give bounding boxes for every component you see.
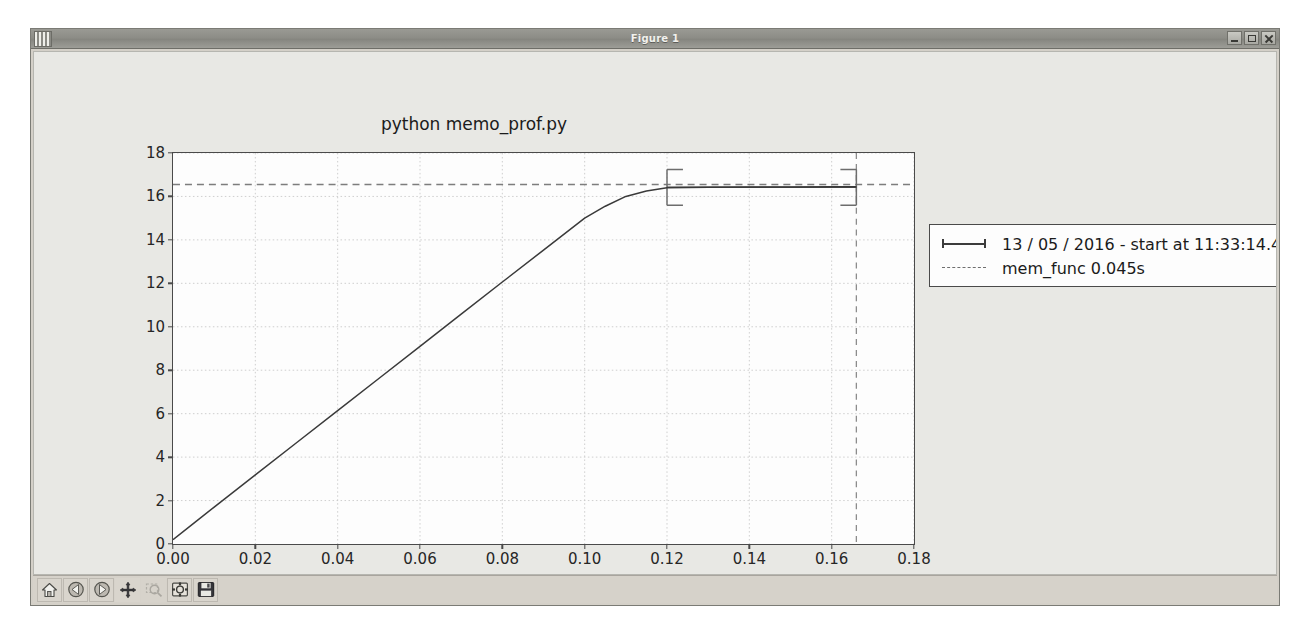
y-tick-mark — [168, 413, 173, 414]
save-floppy-icon[interactable] — [193, 578, 218, 602]
x-tick-mark — [666, 544, 667, 549]
y-tick-mark — [168, 456, 173, 457]
back-arrow-icon[interactable] — [63, 578, 88, 602]
minimize-icon[interactable] — [1227, 31, 1242, 45]
home-icon[interactable] — [37, 578, 62, 602]
x-tick-mark — [913, 544, 914, 549]
x-tick-mark — [337, 544, 338, 549]
y-tick-label: 12 — [146, 274, 165, 292]
y-tick-mark — [168, 239, 173, 240]
legend-label: 13 / 05 / 2016 - start at 11:33:14.4 — [1002, 235, 1277, 254]
close-icon[interactable] — [1261, 31, 1276, 45]
window-controls — [1227, 31, 1276, 45]
y-tick-mark — [168, 370, 173, 371]
y-tick-label: 10 — [146, 318, 165, 336]
y-tick-mark — [168, 196, 173, 197]
y-tick-label: 2 — [155, 492, 165, 510]
x-tick-mark — [255, 544, 256, 549]
y-tick-label: 8 — [155, 361, 165, 379]
page-root: Figure 1 python memo_prof.py memory used… — [0, 0, 1311, 643]
y-tick-mark — [168, 283, 173, 284]
figure-canvas[interactable]: python memo_prof.py memory used (in MiB)… — [33, 51, 1277, 575]
y-tick-mark — [168, 326, 173, 327]
pan-move-icon[interactable] — [115, 578, 140, 602]
chart-title: python memo_prof.py — [34, 114, 914, 134]
x-tick-mark — [831, 544, 832, 549]
y-tick-mark — [168, 500, 173, 501]
toolbar-status-area — [222, 576, 1277, 603]
x-tick-mark — [749, 544, 750, 549]
y-tick-mark — [168, 152, 173, 153]
plot-drawing — [173, 153, 914, 544]
y-tick-label: 18 — [146, 144, 165, 162]
x-tick-label: 0.10 — [568, 550, 601, 568]
x-tick-mark — [584, 544, 585, 549]
navigation-toolbar — [33, 575, 1277, 603]
chart-legend: 13 / 05 / 2016 - start at 11:33:14.4 mem… — [929, 224, 1277, 287]
forward-arrow-icon[interactable] — [89, 578, 114, 602]
solid-capped-line-icon — [940, 238, 988, 250]
window-title: Figure 1 — [31, 33, 1279, 44]
legend-item: 13 / 05 / 2016 - start at 11:33:14.4 — [940, 232, 1277, 256]
y-tick-label: 6 — [155, 405, 165, 423]
x-tick-label: 0.12 — [650, 550, 683, 568]
figure-window: Figure 1 python memo_prof.py memory used… — [30, 28, 1280, 606]
x-tick-label: 0.06 — [403, 550, 436, 568]
x-tick-mark — [419, 544, 420, 549]
y-tick-label: 4 — [155, 448, 165, 466]
configure-subplots-icon[interactable] — [167, 578, 192, 602]
x-tick-mark — [502, 544, 503, 549]
y-tick-label: 16 — [146, 187, 165, 205]
legend-label: mem_func 0.045s — [1002, 259, 1145, 278]
x-tick-mark — [172, 544, 173, 549]
zoom-rect-icon[interactable] — [141, 578, 166, 602]
x-tick-label: 0.08 — [486, 550, 519, 568]
x-tick-label: 0.18 — [897, 550, 930, 568]
figure-icon — [34, 31, 52, 47]
maximize-icon[interactable] — [1244, 31, 1259, 45]
window-titlebar[interactable]: Figure 1 — [31, 29, 1279, 49]
x-tick-label: 0.14 — [733, 550, 766, 568]
y-tick-label: 14 — [146, 231, 165, 249]
plot-axes[interactable]: 0246810121416180.000.020.040.060.080.100… — [172, 152, 915, 545]
legend-item: mem_func 0.045s — [940, 256, 1277, 280]
x-tick-label: 0.00 — [156, 550, 189, 568]
x-tick-label: 0.02 — [239, 550, 272, 568]
dashed-line-icon — [940, 262, 988, 274]
x-tick-label: 0.04 — [321, 550, 354, 568]
x-tick-label: 0.16 — [815, 550, 848, 568]
